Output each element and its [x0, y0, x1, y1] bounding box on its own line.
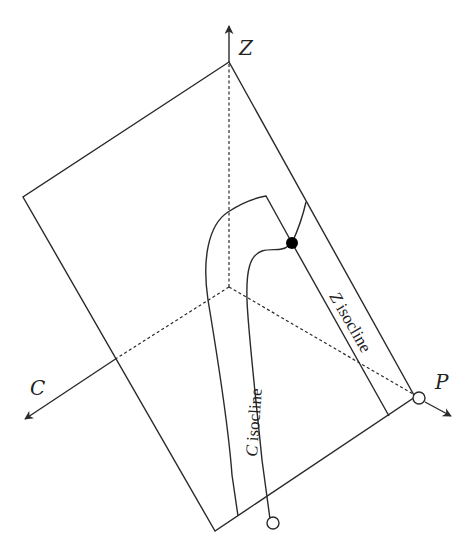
p-axis-equilibrium-point [413, 392, 425, 404]
c-axis-label: C [30, 376, 45, 400]
plane-edge-equilibrium-point [267, 517, 279, 529]
isocline-plane [23, 62, 415, 531]
z-axis-label: Z [238, 36, 254, 60]
c-isocline-label: C isocline [242, 388, 266, 458]
p-axis-label: P [434, 370, 449, 394]
c-isocline-curve [206, 196, 292, 516]
c-isocline-inner-curve [247, 246, 288, 519]
z-isocline-label: Z isocline [326, 289, 376, 356]
p-axis-hidden [229, 287, 413, 394]
p-axis [425, 402, 451, 416]
intersection-point [286, 237, 298, 249]
phase-diagram: Z C P C isocline Z isocline [0, 0, 473, 560]
